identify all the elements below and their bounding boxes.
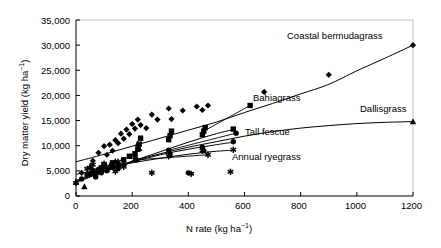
y-tick-label-30000: 30,000 xyxy=(28,41,70,51)
x-tick-label-1000: 1000 xyxy=(345,201,366,211)
x-tick-label-1200: 1200 xyxy=(401,201,422,211)
chart-figure: 0 5,000 10,000 15,000 20,000 25,000 30,0… xyxy=(0,0,441,248)
series-label-bahiagrass: Bahiagrass xyxy=(253,93,301,103)
x-tick-label-800: 800 xyxy=(291,201,307,211)
y-axis-title-container: Dry matter yield (kg ha−1) xyxy=(14,38,32,188)
series-label-dallisgrass: Dallisgrass xyxy=(360,104,406,114)
x-axis-title-text: N rate (kg ha xyxy=(186,223,241,234)
x-tick-label-600: 600 xyxy=(235,201,251,211)
data-points xyxy=(73,42,416,189)
series-label-coastal-bermudagrass: Coastal bermudagrass xyxy=(287,31,383,41)
y-tick-label-15000: 15,000 xyxy=(28,116,70,126)
y-tick-label-0: 0 xyxy=(28,191,70,201)
y-axis-title: Dry matter yield (kg ha−1) xyxy=(19,60,30,167)
x-axis-title-paren: ) xyxy=(249,223,252,234)
x-axis-title-exponent: −1 xyxy=(241,222,249,229)
y-tick-label-25000: 25,000 xyxy=(28,66,70,76)
y-axis-title-exponent: −1 xyxy=(18,63,25,71)
x-axis-title: N rate (kg ha−1) xyxy=(186,222,252,234)
y-tick-label-5000: 5,000 xyxy=(28,166,70,176)
series-label-tall-fescue: Tall fescue xyxy=(245,127,290,137)
x-tick-label-400: 400 xyxy=(179,201,195,211)
series-label-annual-ryegrass: Annual ryegrass xyxy=(232,152,301,162)
x-tick-label-0: 0 xyxy=(73,201,78,211)
y-tick-label-35000: 35,000 xyxy=(28,16,70,26)
y-tick-label-20000: 20,000 xyxy=(28,91,70,101)
x-tick-label-200: 200 xyxy=(123,201,139,211)
y-axis-title-paren: ) xyxy=(19,60,30,63)
y-tick-label-10000: 10,000 xyxy=(28,141,70,151)
y-axis-title-text: Dry matter yield (kg ha xyxy=(19,71,30,167)
